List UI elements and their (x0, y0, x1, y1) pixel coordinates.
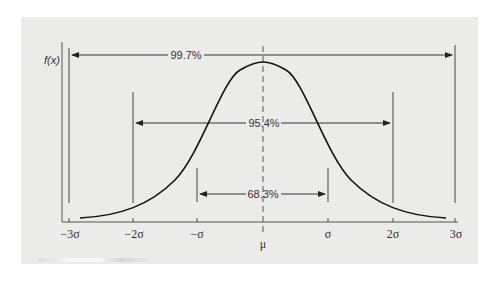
x-tick-labels: −3σ −2σ −σ μ σ 2σ 3σ (60, 227, 462, 251)
interval-99-7-arrow: 99.7% (72, 49, 452, 61)
label-95-4: 95.4% (248, 117, 279, 129)
label-99-7: 99.7% (170, 49, 201, 61)
tick-label-minus-3sigma: −3σ (60, 227, 80, 241)
interval-68-3-arrow: 68.3% (200, 188, 325, 200)
tick-label-minus-2sigma: −2σ (124, 227, 144, 241)
tick-label-minus-sigma: −σ (190, 227, 204, 241)
normal-distribution-diagram: 99.7% 95.4% 68.3% f(x) −3σ −2σ −σ μ σ 2σ… (0, 0, 501, 286)
tick-label-2sigma: 2σ (387, 227, 400, 241)
label-68-3: 68.3% (247, 188, 278, 200)
x-ticks (69, 218, 455, 222)
y-axis-label: f(x) (44, 54, 60, 66)
tick-label-sigma: σ (325, 227, 332, 241)
tick-label-3sigma: 3σ (450, 227, 463, 241)
tick-label-mu: μ (260, 237, 266, 251)
interval-95-4-arrow: 95.4% (136, 117, 390, 129)
